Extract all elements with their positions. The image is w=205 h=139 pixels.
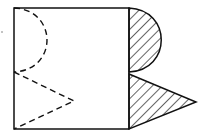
dashed-triangle	[14, 72, 74, 129]
shape-diagram	[0, 0, 205, 139]
stray-dot	[1, 31, 3, 33]
square	[14, 8, 129, 129]
dashed-semicircle	[14, 8, 47, 72]
hatched-semicircle	[129, 8, 161, 72]
hatched-triangle	[129, 74, 196, 129]
